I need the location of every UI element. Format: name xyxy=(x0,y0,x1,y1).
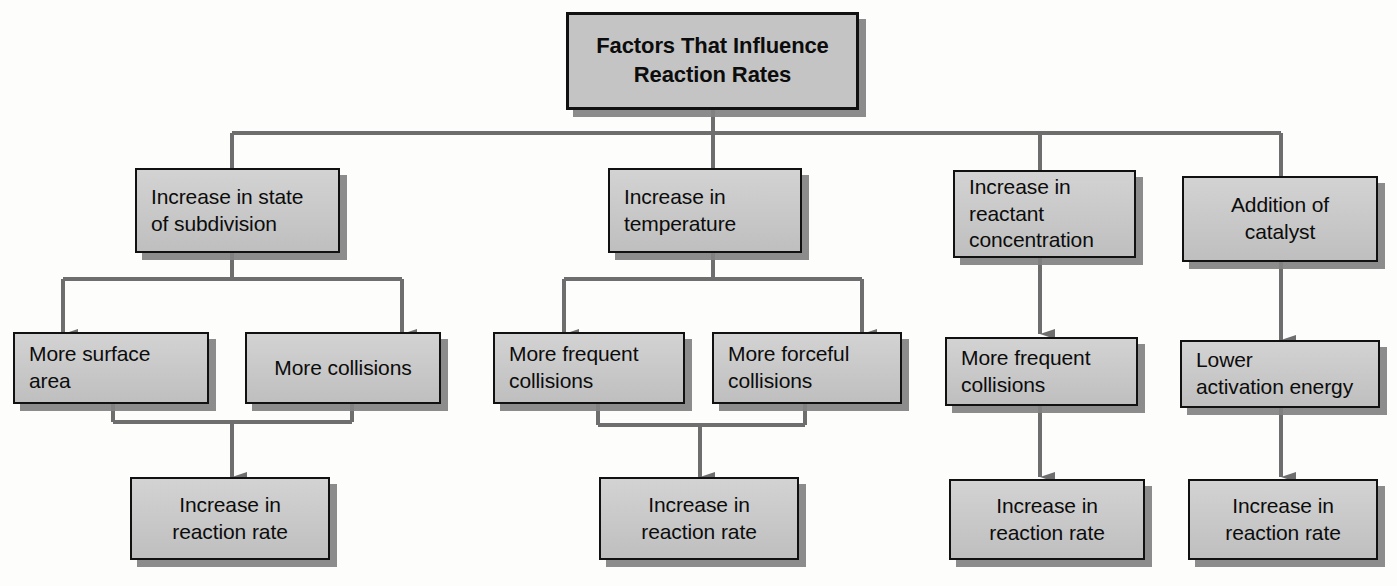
node-more-collisions[interactable]: More collisions xyxy=(245,332,441,404)
node-label: Addition of catalyst xyxy=(1184,192,1376,246)
node-label: Lower activation energy xyxy=(1182,347,1378,401)
node-label: Increase in reaction rate xyxy=(951,493,1143,547)
node-label: Increase in reactant concentration xyxy=(955,174,1134,255)
node-more-forceful-collisions[interactable]: More forceful collisions xyxy=(712,332,902,404)
node-increase-in-reaction-rate-4[interactable]: Increase in reaction rate xyxy=(1188,479,1378,560)
node-title-factors[interactable]: Factors That Influence Reaction Rates xyxy=(566,12,859,110)
node-more-frequent-collisions-temperature[interactable]: More frequent collisions xyxy=(493,332,685,404)
node-increase-in-reaction-rate-2[interactable]: Increase in reaction rate xyxy=(599,477,799,560)
node-label: More frequent collisions xyxy=(495,341,683,395)
node-label: More collisions xyxy=(247,355,439,382)
flowchart-diagram: Factors That Influence Reaction Rates In… xyxy=(0,0,1397,586)
node-label: Increase in reaction rate xyxy=(132,492,328,546)
node-addition-of-catalyst[interactable]: Addition of catalyst xyxy=(1182,176,1378,262)
node-label: Increase in reaction rate xyxy=(1190,493,1376,547)
node-more-frequent-collisions-concentration[interactable]: More frequent collisions xyxy=(945,337,1138,406)
node-label: Increase in state of subdivision xyxy=(137,184,338,238)
node-lower-activation-energy[interactable]: Lower activation energy xyxy=(1180,340,1380,408)
node-label: Factors That Influence Reaction Rates xyxy=(569,32,856,89)
node-label: Increase in temperature xyxy=(610,184,800,238)
node-increase-in-reactant-concentration[interactable]: Increase in reactant concentration xyxy=(953,170,1136,258)
node-increase-in-state-of-subdivision[interactable]: Increase in state of subdivision xyxy=(135,168,340,253)
node-increase-in-reaction-rate-1[interactable]: Increase in reaction rate xyxy=(130,477,330,560)
node-label: More surface area xyxy=(15,341,207,395)
node-label: Increase in reaction rate xyxy=(601,492,797,546)
node-more-surface-area[interactable]: More surface area xyxy=(13,332,209,404)
node-increase-in-reaction-rate-3[interactable]: Increase in reaction rate xyxy=(949,479,1145,560)
node-increase-in-temperature[interactable]: Increase in temperature xyxy=(608,168,802,253)
node-label: More forceful collisions xyxy=(714,341,900,395)
node-label: More frequent collisions xyxy=(947,345,1136,399)
